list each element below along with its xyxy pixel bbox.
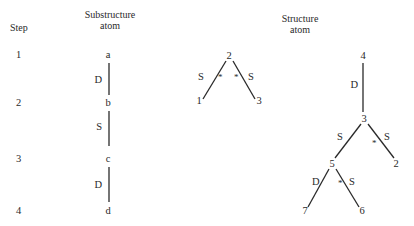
- step-number-1: 1: [16, 49, 21, 60]
- bond-label-b-c: S: [96, 121, 102, 132]
- structure-node-7: 7: [302, 205, 307, 216]
- step-number-4: 4: [16, 205, 22, 216]
- substructure-atom-a: a: [106, 49, 111, 60]
- structure-bond-5-6: [336, 169, 359, 207]
- structure-bond-mark-3-2: *: [372, 138, 377, 148]
- bond-label-a-b: D: [94, 74, 102, 85]
- structure-bond-mark-5-6: *: [338, 178, 343, 188]
- step-header: Step: [10, 22, 28, 33]
- middle-node-2: 2: [226, 50, 231, 61]
- structure-bond-label-3-5: S: [337, 131, 343, 142]
- structure-node-6: 6: [359, 205, 364, 216]
- structure-bond-label-3-2: S: [384, 131, 390, 142]
- substructure-header-line2: atom: [100, 20, 120, 31]
- step-number-3: 3: [16, 153, 21, 164]
- substructure-header-line1: Substructure: [85, 9, 136, 20]
- middle-bond-mark-2-1: *: [218, 72, 223, 82]
- structure-node-5: 5: [329, 158, 334, 169]
- structure-node-3: 3: [361, 113, 366, 124]
- middle-node-3: 3: [256, 95, 261, 106]
- middle-bond-label-2-1: S: [198, 71, 204, 82]
- substructure-atom-b: b: [105, 97, 110, 108]
- structure-bond-label-4-3: D: [350, 79, 358, 90]
- substructure-atom-d: d: [105, 205, 111, 216]
- diagram-canvas: Step Substructure atom Structure atom 1 …: [0, 0, 414, 226]
- structure-node-4: 4: [360, 50, 366, 61]
- middle-bond-mark-2-3: *: [234, 72, 239, 82]
- structure-bond-label-5-7: D: [312, 176, 320, 187]
- middle-bond-label-2-3: S: [248, 71, 254, 82]
- bond-label-c-d: D: [94, 179, 102, 190]
- structure-header-line1: Structure: [282, 13, 319, 24]
- substructure-atom-c: c: [106, 153, 111, 164]
- middle-node-1: 1: [196, 95, 201, 106]
- step-number-2: 2: [16, 97, 21, 108]
- structure-bond-5-7: [308, 169, 329, 207]
- middle-bond-2-1: [203, 61, 226, 99]
- structure-node-2: 2: [393, 158, 398, 169]
- structure-bond-label-5-6: S: [349, 176, 355, 187]
- structure-header-line2: atom: [290, 24, 310, 35]
